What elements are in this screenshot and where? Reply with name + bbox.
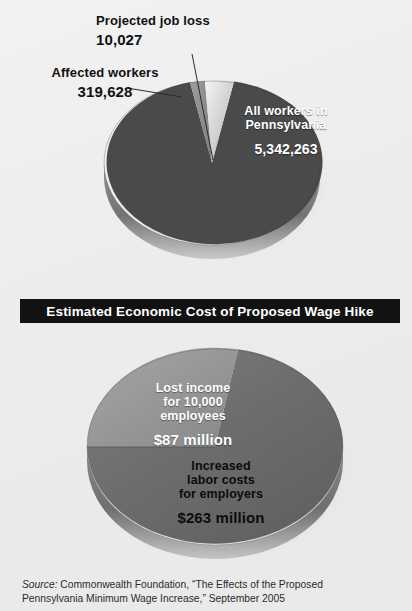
top-pie-inner-label-value: 5,342,263 — [226, 142, 346, 158]
callout-projected-job-loss: Projected job loss 10,027 — [96, 14, 316, 48]
bottom-pie-light-value: $87 million — [128, 432, 258, 449]
source-line1: Commonwealth Foundation, “The Effects of… — [58, 579, 323, 590]
source-line2: Pennsylvania Minimum Wage Increase,” Sep… — [22, 593, 285, 604]
bottom-pie-light-line2: for 10,000 — [163, 395, 222, 409]
source-prefix: Source: — [22, 579, 58, 590]
top-pie-inner-label-line2: Pennsylvania — [245, 118, 326, 132]
bottom-pie-light-line1: Lost income — [156, 381, 231, 395]
bottom-pie-dark-line3: for employers — [179, 487, 263, 501]
source-note: Source: Commonwealth Foundation, “The Ef… — [22, 578, 396, 605]
callout-affected-workers-value: 319,628 — [20, 84, 190, 101]
bottom-pie-dark-slice-label: Increased labor costs for employers $263… — [146, 459, 296, 527]
callout-projected-job-loss-label: Projected job loss — [96, 13, 210, 28]
callout-projected-job-loss-value: 10,027 — [96, 32, 316, 49]
top-pie-inner-label-line1: All workers in — [244, 104, 327, 118]
top-pie-inner-label: All workers in Pennsylvania 5,342,263 — [226, 104, 346, 158]
callout-affected-workers-label: Affected workers — [51, 65, 158, 80]
top-pie-slice-affected-workers — [190, 81, 212, 163]
infographic-canvas: Projected job loss 10,027 Affected worke… — [0, 0, 412, 611]
callout-affected-workers: Affected workers 319,628 — [20, 66, 190, 100]
bottom-pie-dark-value: $263 million — [146, 510, 296, 527]
leader-line-projected-job-loss — [192, 54, 213, 160]
bottom-pie-light-slice-label: Lost income for 10,000 employees $87 mil… — [128, 381, 258, 449]
banner-title: Estimated Economic Cost of Proposed Wage… — [46, 304, 373, 319]
bottom-pie-dark-line2: labor costs — [187, 473, 255, 487]
section-banner: Estimated Economic Cost of Proposed Wage… — [20, 299, 400, 323]
bottom-pie-light-line3: employees — [160, 409, 226, 423]
top-pie-side-wall — [104, 163, 320, 259]
bottom-pie-dark-line1: Increased — [191, 459, 250, 473]
